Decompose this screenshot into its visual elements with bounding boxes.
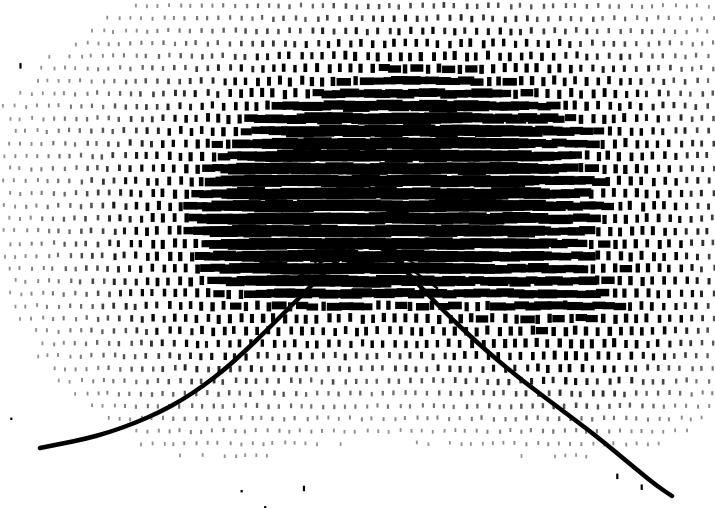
- figure-root: [0, 0, 715, 508]
- stipple-density-plot: [0, 0, 715, 508]
